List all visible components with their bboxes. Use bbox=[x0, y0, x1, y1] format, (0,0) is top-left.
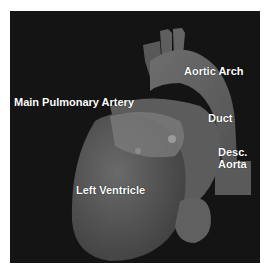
label-main-pulmonary-artery: Main Pulmonary Artery bbox=[14, 97, 134, 108]
label-aortic-arch: Aortic Arch bbox=[184, 66, 244, 77]
label-desc-aorta-line1: Desc. bbox=[218, 147, 247, 158]
label-duct: Duct bbox=[208, 113, 232, 124]
knob-detail bbox=[168, 135, 176, 143]
heart-rendering bbox=[10, 11, 260, 263]
label-desc-aorta-line2: Aorta bbox=[218, 159, 247, 170]
knob-detail bbox=[135, 148, 141, 154]
lower-lobe-shape bbox=[175, 198, 211, 243]
label-left-ventricle: Left Ventricle bbox=[76, 185, 145, 196]
heart-model-image: Aortic Arch Main Pulmonary Artery Duct D… bbox=[10, 11, 260, 263]
